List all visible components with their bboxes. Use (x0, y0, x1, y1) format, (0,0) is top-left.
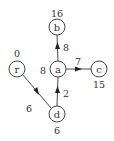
node-distance-b: 16 (51, 8, 63, 19)
node-a: a 8 (40, 61, 66, 77)
edge-weight-a-b: 8 (63, 42, 69, 53)
node-b: b 16 (49, 8, 65, 36)
node-r: r 0 (9, 48, 25, 78)
node-label-a: a (55, 64, 61, 75)
graph-canvas: 8 7 2 6 b 16 a 8 c 15 r 0 d 6 (0, 0, 114, 141)
node-c: c 15 (91, 61, 107, 90)
node-label-b: b (54, 22, 60, 33)
edge-weight-r-d: 6 (26, 103, 32, 114)
node-d: d 6 (49, 106, 65, 136)
node-distance-d: 6 (54, 125, 60, 136)
node-distance-r: 0 (14, 48, 20, 59)
arrow-a-c-icon (75, 67, 82, 72)
node-distance-c: 15 (93, 79, 105, 90)
edge-weight-d-a: 2 (63, 88, 69, 99)
arrow-d-a-icon (55, 86, 60, 93)
node-distance-a: 8 (40, 65, 46, 76)
node-label-r: r (15, 64, 20, 75)
node-label-d: d (54, 109, 61, 120)
arrow-a-b-icon (55, 42, 60, 49)
edge-weights: 8 7 2 6 (26, 42, 81, 114)
node-label-c: c (96, 64, 102, 75)
edge-weight-a-c: 7 (75, 56, 81, 67)
